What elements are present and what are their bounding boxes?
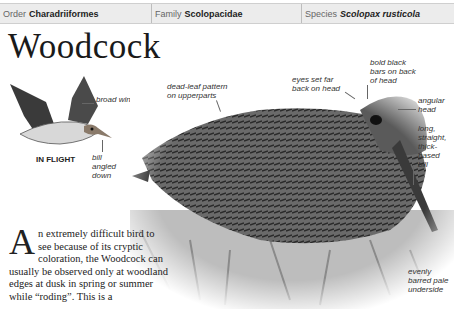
family-value: Scolopacidae bbox=[185, 9, 243, 19]
annotation-leader-line bbox=[398, 109, 416, 110]
woodcock-photo bbox=[130, 90, 454, 309]
order-value: Charadriiformes bbox=[29, 9, 99, 19]
woodcock-flight-illustration bbox=[6, 76, 116, 152]
annotation-leader-line bbox=[413, 165, 414, 185]
family-cell: Family Scolopacidae bbox=[152, 4, 302, 23]
family-label: Family bbox=[155, 9, 182, 19]
annotation-dead-leaf: dead-leaf pattern on upperparts bbox=[167, 82, 237, 100]
page-title: Woodcock bbox=[8, 27, 161, 67]
annotation-head-bars: bold black bars on back of head bbox=[370, 58, 420, 85]
drop-cap: A bbox=[9, 229, 35, 256]
taxonomy-header: Order Charadriiformes Family Scolopacida… bbox=[0, 3, 454, 24]
species-value: Scolopax rusticola bbox=[340, 9, 420, 19]
annotation-eyes: eyes set far back on head bbox=[292, 75, 352, 93]
annotation-leader-line bbox=[367, 85, 368, 99]
order-cell: Order Charadriiformes bbox=[0, 4, 152, 23]
annotation-underside: evenly barred pale underside bbox=[408, 267, 454, 294]
flight-caption: IN FLIGHT bbox=[36, 155, 75, 164]
annotation-leader-line bbox=[102, 140, 103, 152]
order-label: Order bbox=[3, 9, 26, 19]
annotation-bill: long, straight, thick-based bill bbox=[418, 124, 450, 169]
species-label: Species bbox=[305, 9, 337, 19]
annotation-angular-head: angular head bbox=[418, 96, 452, 114]
annotation-leader-line bbox=[82, 103, 94, 104]
annotation-bill-angled: bill angled down bbox=[92, 153, 116, 180]
body-paragraph: An extremely difficult bird to see becau… bbox=[9, 228, 169, 304]
species-cell: Species Scolopax rusticola bbox=[302, 4, 454, 23]
